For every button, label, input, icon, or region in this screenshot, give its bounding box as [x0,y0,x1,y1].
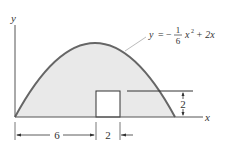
svg-text:=: = [158,29,164,40]
arrow-up-icon [182,92,185,96]
arrow-left-icon [121,134,126,137]
arrow-left-icon [16,134,21,137]
parabola-diagram: y x 2 6 2 y = − 1 6 x 2 + 2x [0,0,229,145]
width-2-label: 2 [105,129,111,141]
svg-text:1: 1 [176,25,181,35]
width-6-label: 6 [54,129,60,141]
arrow-down-icon [182,112,185,116]
svg-text:2: 2 [191,28,194,34]
y-axis-label: y [10,12,16,24]
arrow-right-icon [90,134,95,137]
equation-leader-line [125,37,146,51]
equation-label: y = − 1 6 x 2 + 2x [148,25,215,46]
rectangle [96,91,120,117]
svg-text:+ 2x: + 2x [196,29,215,40]
svg-text:y: y [148,29,154,40]
x-axis-label: x [204,111,210,123]
svg-text:−: − [166,29,172,40]
height-label: 2 [180,98,186,110]
svg-text:6: 6 [176,36,181,46]
svg-text:x: x [184,29,190,40]
